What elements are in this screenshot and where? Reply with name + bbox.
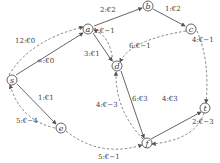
edge-label: 3:€1 [84, 50, 100, 58]
svg-text:a: a [86, 25, 91, 34]
edge-d-f [121, 71, 144, 138]
node-f: f [142, 138, 152, 148]
edge-label: 2:€−3 [192, 118, 214, 126]
edge-label: 5:€−1 [98, 153, 120, 161]
node-b: b [143, 1, 153, 11]
svg-text:s: s [10, 76, 14, 85]
node-c: c [186, 24, 196, 34]
edge-label: 1:€−1 [93, 27, 115, 35]
edge-label: 5:€−4 [16, 117, 38, 125]
svg-text:e: e [59, 124, 64, 133]
node-e: e [56, 123, 66, 133]
edge-label: 6:€3 [132, 95, 148, 103]
svg-text:d: d [114, 62, 119, 71]
edge-label: 4:€−1 [192, 36, 214, 44]
edge-f-d-dashed [116, 72, 143, 139]
edge-label: ∞:€0 [37, 57, 54, 65]
edge-label: 12:€0 [15, 37, 35, 45]
flow-network-diagram: 2:€2 1:€2 3:€1 ∞:€0 1:€1 6:€3 4:€3 12:€0… [0, 0, 220, 163]
svg-text:b: b [145, 2, 150, 11]
edge-label: 6:€−1 [129, 42, 151, 50]
svg-text:c: c [189, 25, 194, 34]
edge-label: 4:€−3 [96, 101, 118, 109]
edge-label: 1:€1 [38, 94, 54, 102]
edge-labels: 2:€2 1:€2 3:€1 ∞:€0 1:€1 6:€3 4:€3 12:€0… [15, 5, 214, 161]
node-t: t [200, 103, 210, 113]
edge-s-a-dashed [9, 27, 83, 75]
node-a: a [83, 24, 93, 34]
node-d: d [112, 61, 122, 71]
edge-label: 2:€2 [100, 6, 116, 14]
edge-label: 4:€3 [162, 95, 178, 103]
node-s: s [7, 75, 17, 85]
edge-label: 1:€2 [165, 5, 181, 13]
edge-e-f-dashed [66, 131, 142, 149]
dashed-edges [9, 27, 207, 149]
